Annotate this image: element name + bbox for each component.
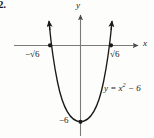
- radicand: 6: [115, 49, 120, 59]
- parabola-plot: [0, 0, 154, 138]
- problem-number: 2.: [0, 0, 6, 10]
- x-intercept-left-label: −√6: [25, 50, 40, 59]
- radicand: 6: [35, 49, 40, 59]
- figure-container: 2. y x −√6 √6 −6 y = x2 − 6: [0, 0, 154, 138]
- x-intercept-right-point: [109, 43, 113, 47]
- equals-sign: =: [110, 83, 116, 93]
- y-axis-label: y: [76, 1, 80, 10]
- curve-equation-label: y = x2 − 6: [104, 84, 141, 93]
- equation-exponent: 2: [123, 82, 126, 88]
- vertex-point: [78, 120, 82, 124]
- x-intercept-right-label: √6: [110, 50, 119, 59]
- x-axis-label: x: [143, 39, 147, 48]
- equation-lhs: y: [104, 83, 108, 93]
- equation-tail: − 6: [128, 83, 141, 93]
- x-intercept-left-point: [48, 43, 52, 47]
- vertex-label: −6: [59, 116, 69, 125]
